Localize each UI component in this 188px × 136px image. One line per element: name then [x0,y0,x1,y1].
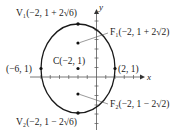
y-axis: y [94,2,103,130]
f2-label: F₂(−2, 1 − 2√2) [110,99,169,110]
center-label: C(−2, 1) [53,56,85,67]
vertex-v1-point [76,22,79,25]
vertex-v2-point [76,111,79,114]
right-point-label: (2, 1) [118,64,139,75]
x-axis-label: x [146,72,151,82]
f2-leader-line [80,95,108,105]
focus-f1-point [76,41,79,44]
ellipse-diagram: x y V₁(−2, 1 + 2√6) F₁(−2, 1 + 2√2) [0,0,188,136]
v1-label: V₁(−2, 1 + 2√6) [16,8,77,19]
v2-label: V₂(−2, 1 − 2√6) [16,117,77,128]
focus-f2-point [76,92,79,95]
f1-leader-line [80,33,108,43]
f1-label: F₁(−2, 1 + 2√2) [110,27,169,38]
left-point-label: (−6, 1) [6,64,32,75]
y-axis-label: y [98,2,103,12]
center-point [76,67,79,70]
right-covertex-point [113,67,116,70]
left-covertex-point [39,67,42,70]
